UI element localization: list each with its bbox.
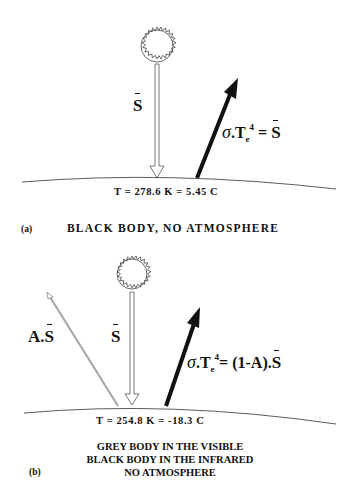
formula-subscript: e bbox=[211, 364, 215, 374]
energy-balance-formula-b: σ.Te4= (1-A).S bbox=[187, 352, 281, 374]
incoming-radiation-arrow bbox=[125, 292, 139, 405]
albedo-prefix: A. bbox=[28, 327, 45, 346]
formula-T: T bbox=[200, 354, 211, 371]
sun-icon bbox=[117, 256, 151, 289]
formula-exponent: 4 bbox=[215, 352, 220, 362]
incoming-flux-label-a: S bbox=[133, 96, 142, 116]
sigma-symbol: σ bbox=[187, 352, 196, 372]
s-bar-symbol: S bbox=[271, 123, 280, 143]
panel-a-graphics bbox=[22, 27, 336, 189]
caption-line-2: BLACK BODY IN THE INFRARED bbox=[55, 453, 285, 466]
panel-tag-b: (b) bbox=[29, 467, 41, 477]
incoming-flux-label-b: S bbox=[111, 327, 120, 347]
caption-line-3: NO ATMOSPHERE bbox=[55, 466, 285, 479]
incoming-radiation-arrow bbox=[150, 64, 164, 178]
energy-balance-formula-a: σ.Te4 = S bbox=[222, 122, 281, 144]
s-bar-symbol: S bbox=[111, 327, 120, 347]
surface-temperature-a: T = 278.6 K = 5.45 C bbox=[114, 186, 218, 197]
panel-caption-a: BLACK BODY, NO ATMOSPHERE bbox=[67, 222, 279, 234]
sigma-symbol: σ bbox=[222, 122, 231, 142]
sun-icon bbox=[141, 27, 176, 62]
reflected-radiation-arrow bbox=[47, 292, 118, 406]
panel-tag-a: (a) bbox=[21, 224, 32, 234]
formula-equals: = bbox=[254, 124, 271, 141]
caption-line-1: GREY BODY IN THE VISIBLE bbox=[55, 440, 285, 453]
formula-subscript: e bbox=[246, 134, 250, 144]
reflected-flux-label: A.S bbox=[28, 327, 54, 347]
formula-exponent: 4 bbox=[250, 122, 255, 132]
formula-coefficient: (1-A). bbox=[232, 354, 272, 371]
panel-caption-b: GREY BODY IN THE VISIBLE BLACK BODY IN T… bbox=[55, 440, 285, 479]
panel-b-graphics bbox=[24, 256, 336, 424]
formula-T: T bbox=[235, 124, 246, 141]
s-bar-symbol: S bbox=[45, 327, 54, 347]
formula-equals: = bbox=[219, 354, 232, 371]
s-bar-symbol: S bbox=[133, 96, 142, 116]
s-bar-symbol: S bbox=[272, 353, 281, 373]
surface-temperature-b: T = 254.8 K = -18.3 C bbox=[96, 415, 204, 426]
